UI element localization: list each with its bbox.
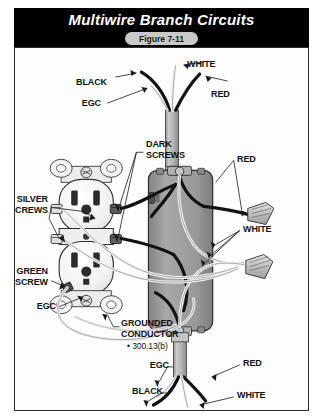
label-egc-bottom: EGC [150,360,169,371]
label-red-top: RED [211,89,230,100]
red-conductor-top [176,74,200,110]
label-green-screw: GREEN SCREW [15,266,48,287]
page-title: Multiwire Branch Circuits [69,11,255,28]
label-egc-left: EGC [37,301,56,312]
wire-nut-lower [246,255,273,279]
label-white-top: WHITE [187,59,216,70]
figure-number-badge: Figure 7-11 [125,32,198,45]
duplex-receptacle [50,159,122,313]
wire-nut-upper [248,202,274,224]
label-red-right: RED [237,154,256,165]
label-red-bottom: RED [243,358,262,369]
figure-number-strip: Figure 7-11 [14,30,309,47]
label-silver-screws: SILVER SCREWS [14,194,48,215]
label-black-top: BLACK [76,77,107,88]
nm-cable-bottom [172,333,189,377]
figure-header-bar: Multiwire Branch Circuits [14,8,309,30]
label-black-bottom: BLACK [132,386,163,397]
label-grounded-conductor-code: • 300.13(b) [127,341,168,352]
label-white-right: WHITE [243,224,272,235]
label-grounded-conductor: GROUNDED CONDUCTOR [121,318,178,339]
label-white-bottom: WHITE [237,390,266,401]
receptacle-outlet-upper [59,179,113,231]
label-dark-screws: DARK SCREWS [146,139,185,160]
figure-page: Multiwire Branch Circuits Figure 7-11 [0,0,323,420]
diagram-frame: BLACK WHITE RED EGC DARK SCREWS SILVER S… [14,47,309,411]
label-egc-top: EGC [82,98,101,109]
